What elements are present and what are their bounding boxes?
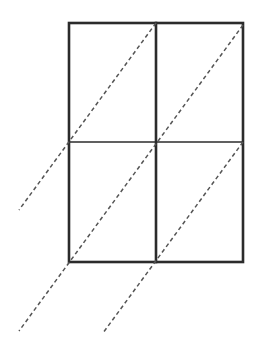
dashed-diagonal-2 xyxy=(19,25,243,331)
dashed-diagonal-1 xyxy=(19,23,156,210)
grid-diagram xyxy=(0,0,262,350)
dashed-diagonal-3 xyxy=(103,142,243,333)
